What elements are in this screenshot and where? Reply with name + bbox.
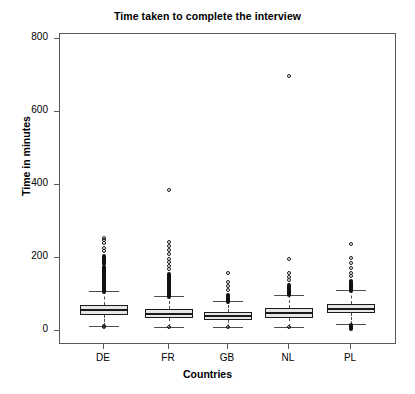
plot-area	[59, 33, 396, 344]
x-tick-mark	[168, 344, 169, 349]
x-axis-title: Countries	[0, 368, 415, 380]
x-tick-label-de: DE	[83, 352, 123, 363]
outlier-point	[349, 242, 353, 246]
outlier-point-cluster	[349, 279, 353, 293]
outlier-point	[349, 266, 353, 270]
y-tick-label: 800	[8, 31, 48, 42]
x-tick-label-gb: GB	[207, 352, 247, 363]
y-tick-label: 600	[8, 104, 48, 115]
outlier-point	[349, 274, 353, 278]
median-line	[327, 308, 375, 310]
outlier-point	[349, 271, 353, 275]
x-tick-label-fr: FR	[148, 352, 188, 363]
x-tick-label-nl: NL	[268, 352, 308, 363]
x-tick-mark	[288, 344, 289, 349]
x-tick-mark	[227, 344, 228, 349]
x-tick-label-pl: PL	[330, 352, 370, 363]
y-tick-label: 400	[8, 177, 48, 188]
boxplot-chart: Time taken to complete the interview Tim…	[0, 0, 415, 394]
outlier-point-cluster	[349, 323, 353, 331]
outlier-point	[349, 261, 353, 265]
y-tick-label: 0	[8, 323, 48, 334]
outlier-point	[349, 256, 353, 260]
y-tick-label: 200	[8, 250, 48, 261]
boxplot-group-pl	[60, 34, 395, 343]
x-tick-mark	[350, 344, 351, 349]
x-tick-mark	[103, 344, 104, 349]
chart-title: Time taken to complete the interview	[0, 10, 415, 22]
